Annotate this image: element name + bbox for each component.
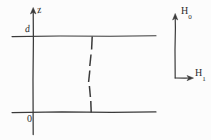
- upper-boundary-label-d: d: [24, 24, 30, 34]
- lower-boundary-label-zero: 0: [27, 114, 32, 124]
- h0-label-subscript: 0: [188, 13, 192, 21]
- figure-container: z d 0 H0 H1: [0, 0, 211, 140]
- h0-field-label: H0: [181, 6, 192, 19]
- dashed-wall-line: [89, 37, 93, 113]
- h1-label-subscript: 1: [202, 75, 206, 83]
- h1-field-label: H1: [195, 68, 206, 81]
